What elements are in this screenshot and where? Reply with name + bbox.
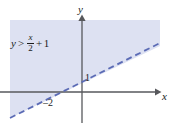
x-axis-label: x — [162, 91, 167, 102]
inequality-graph-figure: y > x 2 + 1 y x 1 –2 — [0, 0, 173, 123]
inequality-lhs: y — [11, 38, 16, 49]
y-axis-arrowhead — [78, 15, 85, 22]
plus-sign: + — [36, 38, 42, 49]
x-axis-arrowhead — [155, 88, 162, 95]
fraction-numerator: x — [28, 33, 34, 43]
tick-label-x-intercept: –2 — [43, 98, 53, 108]
constant-term: 1 — [44, 38, 50, 49]
y-axis-label: y — [78, 4, 83, 15]
fraction-x-over-2: x 2 — [27, 33, 34, 53]
inequality-relation-symbol: > — [18, 38, 24, 49]
graph-canvas — [0, 0, 173, 123]
tick-label-y-intercept: 1 — [85, 73, 90, 83]
fraction-denominator: 2 — [27, 44, 34, 54]
inequality-annotation: y > x 2 + 1 — [11, 33, 49, 53]
